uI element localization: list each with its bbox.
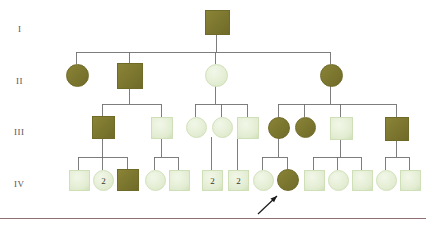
- pedigree-square-unaffected-iii-2: [151, 117, 173, 139]
- pedigree-square-unaffected-iv-12: [352, 170, 373, 191]
- sibship-count-label: 2: [203, 171, 222, 190]
- pedigree-circle-affected-iii-7: [295, 117, 316, 138]
- pedigree-square-affected-iii-1: [92, 116, 115, 139]
- generation-label-iv: IV: [14, 179, 25, 189]
- pedigree-square-affected-ii-2: [117, 63, 143, 89]
- generation-label-ii: II: [16, 76, 23, 86]
- pedigree-circle-unaffected-iv-11: [328, 170, 349, 191]
- sibship-count-label: 2: [229, 171, 248, 190]
- pedigree-circle-affected-ii-4: [320, 64, 343, 87]
- sibship-count-label: 2: [94, 171, 113, 190]
- pedigree-circle-affected-ii-1: [66, 64, 89, 87]
- pedigree-square-unaffected-iv-14: [400, 170, 421, 191]
- pedigree-square-unaffected-iii-8: [330, 117, 353, 140]
- pedigree-circle-unaffected-ii-3: [205, 64, 228, 87]
- pedigree-square-affected-i-1: [205, 10, 230, 35]
- bottom-divider-rule: [0, 218, 426, 219]
- pedigree-circle-unaffected-iv-8: [253, 170, 274, 191]
- pedigree-circle-unaffected-iv-2: 2: [93, 170, 114, 191]
- pedigree-circle-unaffected-iii-4: [212, 117, 233, 138]
- pedigree-circle-unaffected-iv-13: [376, 170, 397, 191]
- pedigree-square-unaffected-iv-7: 2: [228, 170, 249, 191]
- pedigree-chart: 222 IIIIIIIV: [0, 0, 426, 233]
- pedigree-circle-unaffected-iii-3: [186, 117, 207, 138]
- generation-label-iii: III: [14, 127, 25, 137]
- pedigree-square-affected-iv-3: [117, 169, 139, 191]
- pedigree-square-unaffected-iv-10: [304, 170, 325, 191]
- pedigree-circle-affected-iii-6: [268, 117, 290, 139]
- generation-label-i: I: [18, 24, 22, 34]
- pedigree-square-unaffected-iv-6: 2: [202, 170, 223, 191]
- pedigree-square-unaffected-iii-5: [237, 117, 259, 139]
- pedigree-square-affected-iii-9: [385, 117, 409, 141]
- pedigree-circle-affected-iv-9: [277, 169, 299, 191]
- pedigree-circle-unaffected-iv-4: [145, 170, 166, 191]
- pedigree-square-unaffected-iv-5: [169, 170, 190, 191]
- pedigree-square-unaffected-iv-1: [69, 170, 90, 191]
